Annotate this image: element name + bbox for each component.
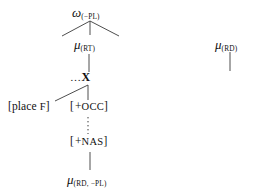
node-mu-rd-minus-pl: μ(RD, −PL) — [67, 173, 107, 187]
omega-subscript: (−PL) — [81, 12, 100, 21]
plus-nas-feature: NAS — [82, 136, 104, 147]
phonological-tree-diagram: ω(−PL) μ(RT) …X [placeF] [+OCC] [+NAS] μ… — [0, 0, 258, 196]
plus-nas-open-bracket: [ — [70, 135, 74, 147]
plus-nas-close-bracket: ] — [103, 135, 107, 147]
plus-occ-open-bracket: [ — [70, 100, 74, 112]
mu-rt-subscript: (RT) — [81, 44, 96, 53]
node-mu-rd: μ(RD) — [215, 38, 237, 52]
mu-rd-subscript: (RD) — [222, 44, 238, 53]
x-symbol: X — [82, 70, 91, 84]
omega-symbol: ω — [72, 5, 81, 20]
node-plus-nas: [+NAS] — [70, 136, 107, 148]
place-f-word: place — [12, 100, 37, 112]
mu-rd-minus-pl-subscript: (RD, −PL) — [74, 179, 107, 188]
node-x: …X — [70, 71, 90, 83]
node-mu-rt: μ(RT) — [74, 38, 95, 52]
node-omega-root: ω(−PL) — [72, 6, 100, 20]
plus-occ-feature: OCC — [82, 101, 105, 112]
ellipsis-text: … — [70, 71, 82, 83]
edge-x-to-place-f — [55, 85, 88, 101]
node-plus-occ: [+OCC] — [70, 101, 108, 113]
plus-nas-sign: + — [75, 135, 82, 147]
edge-omega-to-left-branch — [62, 21, 90, 36]
place-f-close-bracket: ] — [46, 100, 50, 112]
plus-occ-close-bracket: ] — [104, 100, 108, 112]
edge-omega-to-right-branch — [90, 21, 119, 36]
node-place-f: [placeF] — [8, 101, 50, 113]
plus-occ-sign: + — [75, 100, 82, 112]
tree-edges-layer — [0, 0, 258, 196]
